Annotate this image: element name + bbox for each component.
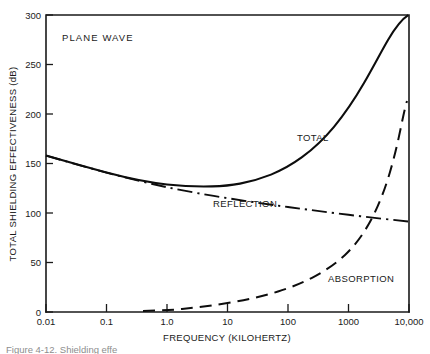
x-axis-title: FREQUENCY (KILOHERTZ) bbox=[163, 332, 291, 343]
figure-caption: Figure 4-12. Shielding effe bbox=[6, 344, 117, 354]
plot-frame bbox=[46, 15, 409, 312]
x-tick-label-1000: 1000 bbox=[338, 316, 359, 327]
y-axis-ticks bbox=[46, 15, 53, 312]
series-label-absorption: ABSORPTION bbox=[328, 273, 394, 284]
y-axis-title: TOTAL SHIELDING EFFECTIVENESS (dB) bbox=[7, 67, 18, 262]
figure-root: 0 50 100 150 200 250 300 0.01 0.1 1.0 10… bbox=[0, 0, 430, 354]
x-axis-ticks bbox=[46, 304, 409, 312]
y-tick-label-100: 100 bbox=[25, 208, 41, 219]
x-tick-label-0p1: 0.1 bbox=[100, 316, 113, 327]
y-tick-label-200: 200 bbox=[25, 109, 41, 120]
y-tick-label-300: 300 bbox=[25, 10, 41, 21]
shielding-effectiveness-chart: 0 50 100 150 200 250 300 0.01 0.1 1.0 10… bbox=[0, 0, 430, 354]
series-curve-reflection bbox=[46, 156, 409, 222]
plane-wave-annotation: PLANE WAVE bbox=[62, 32, 134, 43]
x-tick-label-1p0: 1.0 bbox=[160, 316, 173, 327]
x-tick-label-100: 100 bbox=[280, 316, 296, 327]
y-tick-label-50: 50 bbox=[30, 257, 41, 268]
x-axis-tick-labels: 0.01 0.1 1.0 10 100 1000 10,000 bbox=[37, 316, 424, 327]
x-tick-label-10000: 10,000 bbox=[394, 316, 423, 327]
y-tick-label-250: 250 bbox=[25, 59, 41, 70]
series-label-total: TOTAL bbox=[297, 132, 329, 143]
y-tick-label-150: 150 bbox=[25, 158, 41, 169]
series-label-reflection: REFLECTION bbox=[213, 198, 277, 209]
y-axis-tick-labels: 0 50 100 150 200 250 300 bbox=[25, 10, 41, 318]
x-tick-label-0p01: 0.01 bbox=[37, 316, 56, 327]
plot-border bbox=[46, 15, 409, 312]
x-tick-label-10: 10 bbox=[222, 316, 233, 327]
